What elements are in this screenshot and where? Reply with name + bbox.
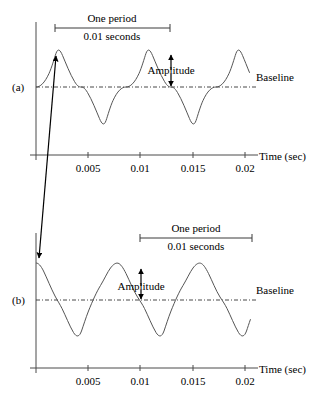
panel-label-b: (b) bbox=[12, 294, 25, 307]
x-tick-label-b-2: 0.015 bbox=[181, 375, 206, 387]
x-tick-label-a-0: 0.005 bbox=[76, 162, 101, 174]
amplitude-label-a: Amplitude bbox=[147, 64, 194, 76]
figure-background bbox=[0, 0, 324, 400]
x-tick-label-a-2: 0.015 bbox=[181, 162, 206, 174]
x-axis-title-a: Time (sec) bbox=[259, 150, 306, 163]
x-tick-label-b-0: 0.005 bbox=[76, 375, 101, 387]
x-axis-title-b: Time (sec) bbox=[259, 363, 306, 376]
baseline-label-a: Baseline bbox=[256, 71, 294, 83]
period-label-b: One period bbox=[171, 222, 221, 234]
waveform-figure: One period 0.01 seconds 0.005 0.01 0.015… bbox=[0, 0, 324, 400]
x-tick-label-a-3: 0.02 bbox=[235, 162, 254, 174]
period-value-label-a: 0.01 seconds bbox=[84, 30, 141, 42]
period-value-label-b: 0.01 seconds bbox=[168, 240, 225, 252]
x-tick-label-a-1: 0.01 bbox=[130, 162, 149, 174]
period-label-a: One period bbox=[87, 12, 137, 24]
x-tick-label-b-1: 0.01 bbox=[130, 375, 149, 387]
x-tick-label-b-3: 0.02 bbox=[235, 375, 254, 387]
amplitude-label-b: Amplitude bbox=[117, 280, 164, 292]
panel-label-a: (a) bbox=[12, 81, 25, 94]
baseline-label-b: Baseline bbox=[256, 284, 294, 296]
